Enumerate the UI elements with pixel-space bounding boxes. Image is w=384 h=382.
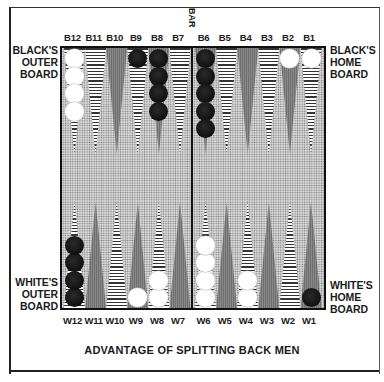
point-label-w1: W1 — [297, 315, 321, 326]
bar-divider — [191, 48, 193, 308]
point-triangle — [85, 202, 106, 308]
label-line: OUTER — [2, 56, 58, 68]
white-checker[interactable] — [65, 49, 84, 68]
white-checker[interactable] — [302, 49, 321, 68]
bottom-point-w2 — [279, 202, 300, 308]
point-triangle — [106, 48, 127, 154]
white-checker[interactable] — [65, 67, 84, 86]
top-point-b9 — [127, 48, 148, 154]
bottom-point-w3 — [258, 202, 279, 308]
top-point-b2 — [279, 48, 300, 154]
black-checker[interactable] — [149, 84, 168, 103]
black-checker[interactable] — [149, 67, 168, 86]
white-checker[interactable] — [149, 271, 168, 290]
label-line: BOARD — [330, 303, 373, 315]
black-outer-board-label: BLACK'S OUTER BOARD — [2, 44, 58, 80]
white-checker[interactable] — [65, 102, 84, 121]
top-point-b10 — [106, 48, 127, 154]
top-point-b7 — [170, 48, 191, 154]
bottom-rule — [9, 370, 379, 372]
figure-caption: ADVANTAGE OF SPLITTING BACK MEN — [0, 344, 384, 356]
top-point-b8 — [148, 48, 169, 154]
bottom-point-w10 — [106, 202, 127, 308]
black-checker[interactable] — [196, 102, 215, 121]
label-line: BOARD — [2, 300, 58, 312]
point-label-w7: W7 — [166, 315, 190, 326]
backgammon-board — [60, 46, 326, 310]
point-triangle — [279, 202, 300, 308]
point-label-b7: B7 — [166, 32, 190, 43]
black-checker[interactable] — [65, 253, 84, 272]
label-line: WHITE'S — [2, 276, 58, 288]
label-line: BOARD — [330, 68, 376, 80]
label-line: HOME — [330, 291, 373, 303]
point-triangle — [106, 202, 127, 308]
black-home-board-label: BLACK'S HOME BOARD — [330, 44, 376, 80]
bottom-point-w11 — [85, 202, 106, 308]
white-checker[interactable] — [196, 271, 215, 290]
label-line: WHITE'S — [330, 279, 373, 291]
point-triangle — [170, 48, 191, 154]
black-checker[interactable] — [302, 288, 321, 307]
point-triangle — [170, 202, 191, 308]
top-point-b6 — [195, 48, 216, 154]
point-label-b1: B1 — [297, 32, 321, 43]
white-checker[interactable] — [196, 253, 215, 272]
label-line: OUTER — [2, 288, 58, 300]
white-checker[interactable] — [196, 236, 215, 255]
black-checker[interactable] — [196, 49, 215, 68]
top-point-b1 — [301, 48, 322, 154]
black-checker[interactable] — [196, 119, 215, 138]
top-point-b4 — [237, 48, 258, 154]
label-line: BLACK'S — [2, 44, 58, 56]
white-checker[interactable] — [196, 288, 215, 307]
bottom-point-w4 — [237, 202, 258, 308]
point-triangle — [85, 48, 106, 154]
bottom-point-w9 — [127, 202, 148, 308]
bottom-point-w7 — [170, 202, 191, 308]
white-checker[interactable] — [65, 84, 84, 103]
label-line: BLACK'S — [330, 44, 376, 56]
point-triangle — [216, 202, 237, 308]
black-checker[interactable] — [196, 84, 215, 103]
bottom-point-w1 — [301, 202, 322, 308]
black-checker[interactable] — [65, 271, 84, 290]
top-point-b11 — [85, 48, 106, 154]
black-checker[interactable] — [149, 102, 168, 121]
white-checker[interactable] — [238, 271, 257, 290]
top-point-b5 — [216, 48, 237, 154]
black-checker[interactable] — [65, 236, 84, 255]
bottom-point-w8 — [148, 202, 169, 308]
label-line: HOME — [330, 56, 376, 68]
white-home-board-label: WHITE'S HOME BOARD — [330, 279, 373, 315]
bottom-point-w12 — [64, 202, 85, 308]
point-triangle — [216, 48, 237, 154]
bar-label: BAR — [187, 8, 196, 28]
point-triangle — [258, 48, 279, 154]
label-line: BOARD — [2, 68, 58, 80]
white-outer-board-label: WHITE'S OUTER BOARD — [2, 276, 58, 312]
top-point-b3 — [258, 48, 279, 154]
top-point-b12 — [64, 48, 85, 154]
black-checker[interactable] — [65, 288, 84, 307]
black-checker[interactable] — [196, 67, 215, 86]
point-triangle — [258, 202, 279, 308]
bottom-point-w6 — [195, 202, 216, 308]
point-triangle — [237, 48, 258, 154]
bottom-point-w5 — [216, 202, 237, 308]
